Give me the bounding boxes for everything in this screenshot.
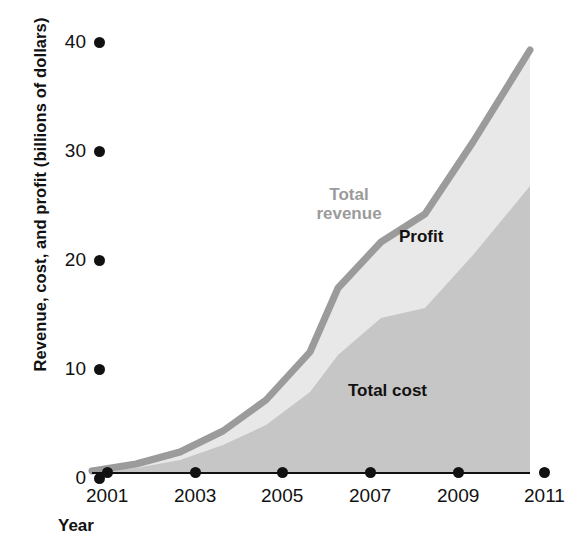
x-tick-2003: 2003 — [174, 467, 216, 507]
x-tick-label: 2001 — [86, 485, 128, 507]
tick-dot-icon — [539, 467, 550, 478]
tick-dot-icon — [365, 467, 376, 478]
series-label-total-revenue: Total revenue — [300, 185, 398, 223]
series-label-line1: Total — [329, 185, 368, 204]
tick-dot-icon — [453, 467, 464, 478]
tick-dot-icon — [190, 467, 201, 478]
chart-root: Revenue, cost, and profit (billions of d… — [0, 0, 570, 560]
tick-dot-icon — [277, 467, 288, 478]
x-tick-2007: 2007 — [349, 467, 391, 507]
tick-dot-icon — [102, 467, 113, 478]
x-tick-2011: 2011 — [524, 467, 565, 507]
x-tick-2001: 2001 — [86, 467, 128, 507]
series-label-profit: Profit — [399, 227, 443, 246]
x-tick-2005: 2005 — [261, 467, 303, 507]
x-tick-label: 2005 — [261, 485, 303, 507]
x-tick-2009: 2009 — [437, 467, 479, 507]
x-tick-label: 2007 — [349, 485, 391, 507]
x-tick-label: 2003 — [174, 485, 216, 507]
series-label-total-cost: Total cost — [348, 381, 427, 400]
series-label-line2: revenue — [316, 204, 381, 223]
x-tick-label: 2009 — [437, 485, 479, 507]
x-tick-label: 2011 — [524, 485, 565, 507]
x-axis-title: Year — [58, 516, 94, 536]
